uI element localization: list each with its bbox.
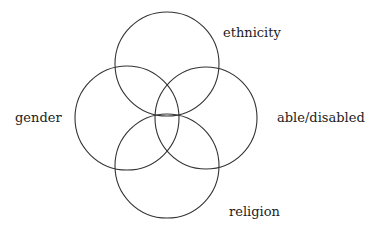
circle-religion [115,114,219,218]
label-ethnicity: ethnicity [223,25,281,40]
label-religion: religion [229,204,281,219]
labels: ethnicity gender able/disabled religion [15,25,365,219]
label-able-disabled: able/disabled [277,110,365,125]
circle-gender [75,66,179,170]
circle-ethnicity [115,12,219,116]
venn-diagram: ethnicity gender able/disabled religion [0,0,375,231]
label-gender: gender [15,110,62,125]
circles [75,12,257,218]
circle-able-disabled [155,67,257,169]
